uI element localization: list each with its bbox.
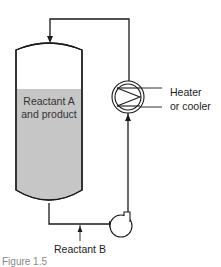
arrow-up-icon [125,114,131,121]
tank-label-line1: Reactant A [17,95,81,108]
arrow-up-icon [78,226,83,232]
tank-outlet-pipe [49,203,111,224]
tank-label-line2: and product [17,108,81,121]
heater-label-line1: Heater [170,86,202,98]
reactor-tank [16,43,82,200]
figure-caption: Figure 1.5 [2,256,47,267]
arrow-down-icon [47,36,53,43]
heater-label-line2: or cooler [170,100,211,112]
heat-exchanger [112,81,144,113]
feed-label: Reactant B [54,243,106,255]
tank-label: Reactant A and product [17,95,81,121]
pump [110,212,132,237]
